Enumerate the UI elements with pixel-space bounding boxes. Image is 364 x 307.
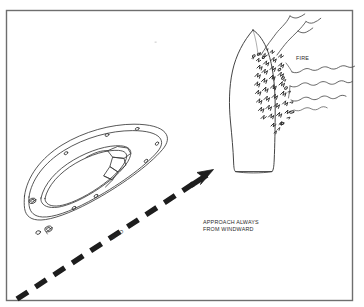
boat-hull-outline xyxy=(24,124,167,220)
approach-instruction-line-1: APPROACH ALWAYS xyxy=(203,219,259,225)
smoke-mid-band-mid xyxy=(290,81,352,87)
approach-instruction-line-2: FROM WINDWARD xyxy=(203,226,254,232)
smoke-mid-band-bottom xyxy=(291,95,346,101)
smoke-connector xyxy=(286,63,292,72)
boat-deck-fitting xyxy=(144,159,149,164)
boat-console-facet-a xyxy=(108,147,131,159)
smoke-lower-trail xyxy=(294,107,327,111)
approach-instruction-label: APPROACH ALWAYSFROM WINDWARD xyxy=(203,219,259,233)
boat-cockpit-opening xyxy=(41,146,131,208)
wind-arrow-shaft xyxy=(17,182,196,299)
figure-border xyxy=(7,11,353,301)
fire-label: FIRE xyxy=(296,55,309,62)
boat-deck-fitting xyxy=(64,151,69,155)
flames xyxy=(252,49,294,134)
smoke-upper-left-edge xyxy=(261,16,290,55)
boat-bow-eyelet xyxy=(28,197,36,204)
diagram-canvas: FIRE WIND APPROACH ALWAYSFROM WINDWARD xyxy=(0,0,364,307)
boat-quarter-eyelet xyxy=(35,230,41,235)
diagram-artwork xyxy=(0,0,364,307)
scan-speck xyxy=(155,41,157,43)
smoke-scallop xyxy=(306,18,321,23)
boat-deck-inner-line xyxy=(29,131,162,217)
boat-deck-fitting xyxy=(155,141,160,146)
boat-stern-eyelet xyxy=(44,225,53,234)
boat-cockpit-inner-line xyxy=(45,150,127,206)
smoke-mid-band-top xyxy=(292,66,355,73)
smoke-scallop xyxy=(290,14,305,18)
smoke-upper-right-edge xyxy=(277,22,306,56)
rescue-boat-top-view xyxy=(24,124,167,235)
boat-deck-fitting xyxy=(135,127,140,131)
boat-deck-fitting xyxy=(94,194,99,198)
